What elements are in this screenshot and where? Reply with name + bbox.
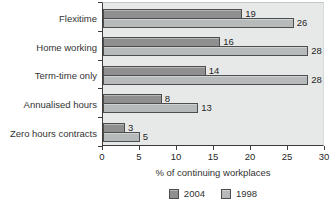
bar-group-home-working: 1628 bbox=[103, 31, 323, 59]
bar-value-label: 26 bbox=[297, 18, 308, 28]
bar-value-label: 28 bbox=[311, 75, 322, 85]
bar-chart: FlexitimeHome workingTerm-time onlyAnnua… bbox=[0, 0, 334, 209]
x-axis-title: % of continuing workplaces bbox=[102, 167, 324, 178]
legend-item-1998: 1998 bbox=[221, 189, 257, 199]
x-axis-ticks: 051015202530 bbox=[102, 146, 324, 164]
bar-group-annualised-hours: 813 bbox=[103, 88, 323, 116]
bar-value-label: 28 bbox=[311, 47, 322, 57]
category-label-term-time-only: Term-time only bbox=[0, 60, 97, 89]
legend-label-2004: 2004 bbox=[184, 189, 205, 199]
legend-swatch-1998 bbox=[221, 189, 231, 199]
bar-group-zero-hours-contracts: 35 bbox=[103, 117, 323, 145]
x-tick-mark bbox=[176, 146, 177, 150]
x-tick-mark bbox=[250, 146, 251, 150]
category-labels: FlexitimeHome workingTerm-time onlyAnnua… bbox=[0, 2, 97, 146]
category-label-home-working: Home working bbox=[0, 31, 97, 60]
legend-label-1998: 1998 bbox=[236, 189, 257, 199]
bar-group-flexitime: 1926 bbox=[103, 3, 323, 31]
bar-1998-annualised-hours: 13 bbox=[103, 103, 198, 113]
x-tick-mark bbox=[324, 146, 325, 150]
x-tick-label-0: 0 bbox=[99, 152, 104, 162]
x-tick-mark bbox=[139, 146, 140, 150]
x-tick-label-30: 30 bbox=[319, 152, 330, 162]
category-label-flexitime: Flexitime bbox=[0, 2, 97, 31]
legend-item-2004: 2004 bbox=[169, 189, 205, 199]
x-tick-label-15: 15 bbox=[208, 152, 219, 162]
legend: 20041998 bbox=[102, 189, 324, 199]
x-tick-label-5: 5 bbox=[136, 152, 141, 162]
x-tick-mark bbox=[287, 146, 288, 150]
x-tick-label-25: 25 bbox=[282, 152, 293, 162]
bar-group-term-time-only: 1428 bbox=[103, 60, 323, 88]
bar-1998-zero-hours-contracts: 5 bbox=[103, 132, 140, 142]
bar-1998-term-time-only: 28 bbox=[103, 75, 308, 85]
plot-area: 19261628142881335 bbox=[102, 2, 324, 146]
category-label-annualised-hours: Annualised hours bbox=[0, 88, 97, 117]
bar-1998-home-working: 28 bbox=[103, 46, 308, 56]
category-label-zero-hours-contracts: Zero hours contracts bbox=[0, 117, 97, 146]
bar-1998-flexitime: 26 bbox=[103, 18, 294, 28]
legend-swatch-2004 bbox=[169, 189, 179, 199]
x-tick-label-20: 20 bbox=[245, 152, 256, 162]
bar-value-label: 13 bbox=[201, 103, 212, 113]
x-tick-mark bbox=[213, 146, 214, 150]
x-tick-label-10: 10 bbox=[171, 152, 182, 162]
bar-value-label: 5 bbox=[143, 132, 148, 142]
x-tick-mark bbox=[102, 146, 103, 150]
